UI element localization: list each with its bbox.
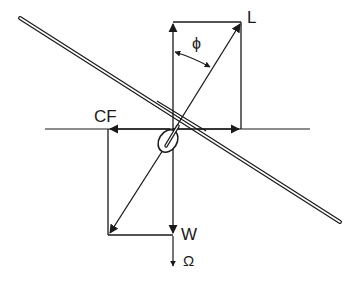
weight-label: W <box>181 226 197 243</box>
centrifugal-force-label: CF <box>94 108 117 125</box>
diagram-canvas: L ϕ CF W Ω <box>0 0 352 285</box>
resultant-label: Ω <box>183 253 194 268</box>
resultant-diagonal <box>110 150 163 233</box>
force-diagram <box>0 0 352 285</box>
bank-angle-arc <box>175 52 210 67</box>
lift-label: L <box>247 9 256 26</box>
fuselage-nose <box>154 126 182 156</box>
lift-vector <box>168 24 240 140</box>
tail-stroke <box>157 101 206 131</box>
bank-angle-label: ϕ <box>192 36 201 52</box>
